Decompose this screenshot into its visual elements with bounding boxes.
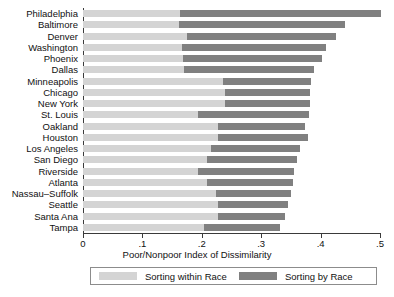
bar-row xyxy=(83,87,380,98)
x-axis-title: Poor/Nonpoor Index of Dissimilarity xyxy=(0,249,394,260)
bar-segment-by-race xyxy=(211,145,300,152)
bar-row xyxy=(83,31,380,42)
x-axis-tick-label: .5 xyxy=(368,238,392,249)
bar-segment-by-race xyxy=(204,224,279,231)
bar-segment-within-race xyxy=(83,111,198,118)
category-label: Tampa xyxy=(49,222,78,233)
category-label: Oakland xyxy=(43,121,78,132)
legend-swatch-icon-by-race xyxy=(239,272,277,280)
bar-segment-by-race xyxy=(198,111,308,118)
legend: Sorting within Race Sorting by Race xyxy=(90,267,377,285)
bar-segment-by-race xyxy=(180,10,381,17)
category-label: Nassau–Suffolk xyxy=(12,188,78,199)
bar-row xyxy=(83,8,380,19)
bar-segment-by-race xyxy=(218,123,305,130)
x-axis-tick-label: .3 xyxy=(249,238,273,249)
bar-row xyxy=(83,143,380,154)
bar-segment-by-race xyxy=(187,33,336,40)
bar-segment-within-race xyxy=(83,190,216,197)
category-label: Denver xyxy=(47,31,78,42)
legend-label-within-race: Sorting within Race xyxy=(145,271,227,282)
category-label: Santa Ana xyxy=(34,211,78,222)
category-label: Houston xyxy=(43,132,78,143)
bar-segment-within-race xyxy=(83,78,223,85)
category-label: San Diego xyxy=(34,154,78,165)
category-label: Baltimore xyxy=(38,19,78,30)
bar-row xyxy=(83,98,380,109)
bar-segment-within-race xyxy=(83,145,211,152)
category-label: Minneapolis xyxy=(27,76,78,87)
bar-segment-within-race xyxy=(83,44,182,51)
bar-segment-by-race xyxy=(179,21,345,28)
category-label: St. Louis xyxy=(41,109,78,120)
bar-segment-within-race xyxy=(83,123,218,130)
bar-segment-by-race xyxy=(218,134,308,141)
x-axis-tick-label: 0 xyxy=(71,238,95,249)
x-axis-tick-label: .1 xyxy=(130,238,154,249)
x-axis-tick-label: .4 xyxy=(309,238,333,249)
bar-segment-by-race xyxy=(216,190,291,197)
bar-segment-by-race xyxy=(218,213,285,220)
legend-label-by-race: Sorting by Race xyxy=(285,271,353,282)
bar-segment-within-race xyxy=(83,168,198,175)
x-axis-line xyxy=(83,233,381,234)
category-label: New York xyxy=(38,98,78,109)
plot-area xyxy=(83,8,380,233)
bar-segment-within-race xyxy=(83,10,180,17)
bar-row xyxy=(83,188,380,199)
bar-segment-within-race xyxy=(83,21,179,28)
bar-segment-by-race xyxy=(207,156,297,163)
bar-segment-within-race xyxy=(83,201,218,208)
category-label: Seattle xyxy=(48,199,78,210)
bar-segment-within-race xyxy=(83,89,225,96)
bar-segment-by-race xyxy=(225,100,310,107)
bar-segment-by-race xyxy=(184,66,314,73)
category-label: Philadelphia xyxy=(26,8,78,19)
bar-segment-within-race xyxy=(83,55,183,62)
bar-row xyxy=(83,199,380,210)
bar-segment-within-race xyxy=(83,213,218,220)
bar-row xyxy=(83,211,380,222)
bar-segment-by-race xyxy=(198,168,295,175)
category-label: Atlanta xyxy=(48,177,78,188)
bar-row xyxy=(83,177,380,188)
bar-row xyxy=(83,132,380,143)
bar-row xyxy=(83,166,380,177)
bar-segment-by-race xyxy=(223,78,312,85)
bar-segment-within-race xyxy=(83,134,218,141)
bar-row xyxy=(83,42,380,53)
bar-segment-by-race xyxy=(183,55,323,62)
category-label: Chicago xyxy=(43,87,78,98)
bar-row xyxy=(83,76,380,87)
legend-swatch-icon-within-race xyxy=(99,272,137,280)
bar-row xyxy=(83,109,380,120)
category-label: Riverside xyxy=(38,166,78,177)
bar-segment-within-race xyxy=(83,66,184,73)
category-label: Phoenix xyxy=(44,53,78,64)
bar-row xyxy=(83,19,380,30)
bar-row xyxy=(83,64,380,75)
legend-entry-sorting-by-race: Sorting by Race xyxy=(239,268,353,284)
category-label: Dallas xyxy=(52,64,78,75)
category-label: Los Angeles xyxy=(26,143,78,154)
bar-segment-within-race xyxy=(83,179,207,186)
bar-row xyxy=(83,154,380,165)
bar-segment-by-race xyxy=(182,44,326,51)
bar-segment-by-race xyxy=(225,89,310,96)
category-label: Washington xyxy=(28,42,78,53)
bar-segment-within-race xyxy=(83,33,187,40)
bar-segment-within-race xyxy=(83,224,204,231)
bar-segment-by-race xyxy=(207,179,293,186)
x-axis-tick-label: .2 xyxy=(190,238,214,249)
chart-container: PhiladelphiaBaltimoreDenverWashingtonPho… xyxy=(0,0,394,297)
bar-segment-within-race xyxy=(83,156,207,163)
legend-entry-sorting-within-race: Sorting within Race xyxy=(99,268,227,284)
bar-row xyxy=(83,53,380,64)
bar-row xyxy=(83,121,380,132)
bar-segment-by-race xyxy=(218,201,288,208)
bar-segment-within-race xyxy=(83,100,225,107)
bar-row xyxy=(83,222,380,233)
